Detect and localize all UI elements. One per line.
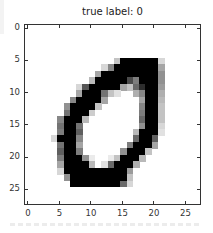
y-tick-mark (197, 28, 200, 29)
x-tick-mark (153, 201, 154, 204)
pixel (89, 110, 96, 117)
pixel (95, 103, 102, 110)
chart-title: true label: 0 (24, 5, 201, 18)
pixel (139, 155, 146, 162)
footer-faint-text (10, 223, 200, 226)
y-tick-label: 20 (2, 151, 20, 161)
x-tick-mark (27, 25, 28, 28)
y-tick-mark (197, 60, 200, 61)
x-tick-label: 20 (144, 208, 164, 218)
x-tick-mark (122, 25, 123, 28)
x-tick-label: 25 (175, 208, 195, 218)
x-tick-mark (185, 201, 186, 204)
x-tick-mark (185, 25, 186, 28)
y-tick-mark (25, 189, 28, 190)
x-tick-mark (90, 25, 91, 28)
y-tick-mark (197, 157, 200, 158)
y-tick-mark (197, 124, 200, 125)
x-tick-label: 0 (18, 208, 38, 218)
y-tick-label: 0 (2, 22, 20, 32)
x-tick-label: 10 (81, 208, 101, 218)
pixel (152, 142, 159, 149)
y-tick-mark (197, 92, 200, 93)
x-tick-mark (153, 25, 154, 28)
pixel (82, 116, 89, 123)
y-tick-mark (25, 92, 28, 93)
pixel (114, 90, 121, 97)
y-tick-mark (25, 157, 28, 158)
x-tick-mark (59, 201, 60, 204)
y-tick-label: 25 (2, 183, 20, 193)
y-tick-mark (25, 124, 28, 125)
pixel (133, 161, 140, 168)
y-tick-mark (197, 189, 200, 190)
y-tick-label: 15 (2, 119, 20, 129)
x-tick-label: 15 (112, 208, 132, 218)
pixel (101, 97, 108, 104)
pixel (158, 129, 165, 136)
y-tick-mark (25, 60, 28, 61)
x-tick-label: 5 (49, 208, 69, 218)
pixel (145, 148, 152, 155)
y-tick-label: 10 (2, 87, 20, 97)
x-tick-mark (59, 25, 60, 28)
y-tick-label: 5 (2, 54, 20, 64)
x-tick-mark (27, 201, 28, 204)
pixel (127, 181, 134, 188)
image-axes (24, 24, 201, 205)
x-tick-mark (90, 201, 91, 204)
x-tick-mark (122, 201, 123, 204)
